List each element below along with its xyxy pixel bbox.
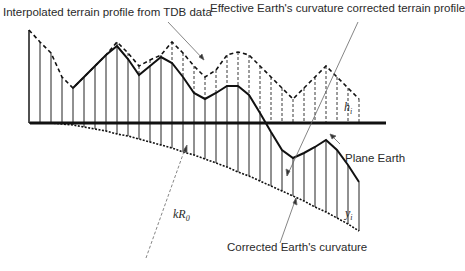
curvature-leader (280, 198, 296, 243)
arrowhead-icon (199, 54, 204, 60)
h-i-symbol: hi (344, 100, 352, 116)
y-subscript: i (350, 213, 352, 222)
terrain-sample-lines (29, 30, 359, 231)
figure-caption-cropped (60, 266, 390, 271)
effective-profile-label: Effective Earth's curvature corrected te… (210, 2, 465, 14)
kR-letters: kR (173, 207, 186, 221)
interpolated-profile-label: Interpolated terrain profile from TDB da… (3, 6, 212, 18)
arrowhead-icon (330, 134, 336, 139)
h-subscript: i (350, 107, 352, 116)
radius-line (146, 146, 186, 258)
plane-earth-label: Plane Earth (345, 152, 405, 164)
corrected-curvature-label: Corrected Earth's curvature (227, 241, 367, 253)
kR-subscript: 0 (186, 214, 190, 223)
y-i-symbol: yi (345, 206, 353, 222)
interpolated-leader (168, 22, 204, 60)
kR0-symbol: kR0 (173, 207, 190, 223)
